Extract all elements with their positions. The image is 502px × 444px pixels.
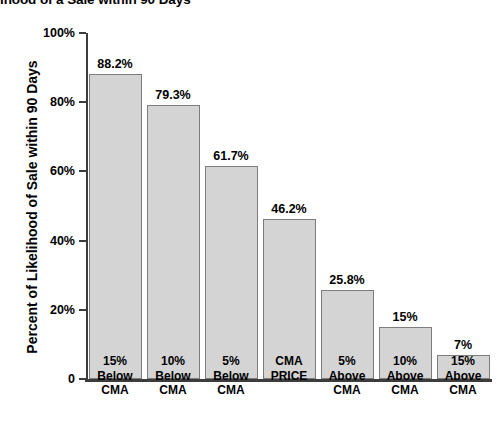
x-axis-category-label: 5%BelowCMA	[202, 354, 260, 398]
chart-title: ihood of a Sale within 90 Days	[0, 0, 400, 7]
x-axis-category-line: CMA	[434, 383, 492, 398]
x-axis-category-line: Above	[376, 369, 434, 384]
x-axis-category-line: Below	[86, 369, 144, 384]
x-axis-category-line: 15%	[86, 354, 144, 369]
x-axis-category-label: CMAPRICE	[260, 354, 318, 383]
x-axis-category-line: Below	[202, 369, 260, 384]
y-axis-tick-label: 0	[68, 372, 75, 386]
bar-value-label: 25.8%	[329, 273, 364, 287]
bar[interactable]: 88.2%	[89, 74, 142, 379]
x-axis-category-label: 15%AboveCMA	[434, 354, 492, 398]
x-axis-category-line: 10%	[144, 354, 202, 369]
y-axis-tick-label: 40%	[50, 234, 75, 248]
bar[interactable]: 61.7%	[205, 166, 258, 379]
y-axis-tick-label: 20%	[50, 303, 75, 317]
y-axis-tick-mark	[79, 170, 86, 172]
x-axis-category-line: CMA	[318, 383, 376, 398]
x-axis-category-line: 10%	[376, 354, 434, 369]
y-axis-tick-label: 80%	[50, 95, 75, 109]
y-axis-tick-mark	[79, 378, 86, 380]
bar-value-label: 79.3%	[155, 88, 190, 102]
y-axis-tick-mark	[79, 101, 86, 103]
bar-value-label: 15%	[392, 310, 417, 324]
bar-value-label: 7%	[454, 338, 472, 352]
bar-value-label: 61.7%	[213, 149, 248, 163]
x-axis-category-label: 15%BelowCMA	[86, 354, 144, 398]
x-axis-category-line: CMA	[260, 354, 318, 369]
x-axis-category-line: CMA	[376, 383, 434, 398]
bar[interactable]: 79.3%	[147, 105, 200, 379]
x-axis-category-line: Below	[144, 369, 202, 384]
x-axis-category-label: 5%AboveCMA	[318, 354, 376, 398]
y-axis-tick-mark	[79, 32, 86, 34]
x-axis-category-line: 5%	[202, 354, 260, 369]
x-axis-category-label: 10%AboveCMA	[376, 354, 434, 398]
y-axis-tick-mark	[79, 240, 86, 242]
bar-value-label: 46.2%	[271, 202, 306, 216]
x-axis-category-label: 10%BelowCMA	[144, 354, 202, 398]
x-axis-category-line: CMA	[202, 383, 260, 398]
y-axis-title: Percent of Likelihood of Sale within 90 …	[24, 27, 40, 387]
y-axis-tick-mark	[79, 309, 86, 311]
x-axis-category-line: 15%	[434, 354, 492, 369]
x-axis-category-line: PRICE	[260, 369, 318, 384]
bar-value-label: 88.2%	[97, 57, 132, 71]
chart-page: ihood of a Sale within 90 Days Percent o…	[0, 0, 502, 444]
x-axis-category-line: CMA	[144, 383, 202, 398]
y-axis-tick-label: 60%	[50, 164, 75, 178]
x-axis-category-line: 5%	[318, 354, 376, 369]
x-axis-category-line: CMA	[86, 383, 144, 398]
y-axis-tick-label: 100%	[43, 26, 75, 40]
x-axis-category-line: Above	[434, 369, 492, 384]
x-axis-category-line: Above	[318, 369, 376, 384]
plot-area: 100%80%60%40%20%0 88.2%79.3%61.7%46.2%25…	[86, 33, 492, 379]
